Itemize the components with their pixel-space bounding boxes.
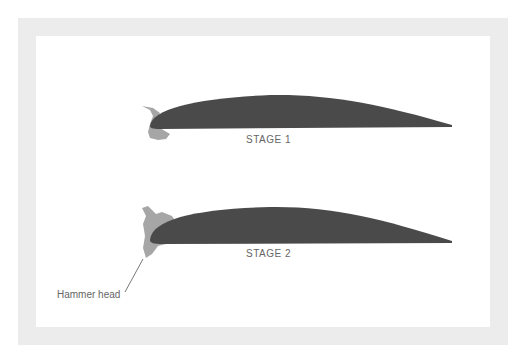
stage1-label: STAGE 1 xyxy=(246,134,291,145)
stage1-airfoil-shape xyxy=(150,95,452,129)
hammer-head-label: Hammer head xyxy=(57,289,120,300)
stage2-label: STAGE 2 xyxy=(246,248,291,259)
annotation-leader-line xyxy=(125,259,143,292)
airfoil-diagram xyxy=(0,0,522,357)
stage2-airfoil-shape xyxy=(150,207,452,244)
